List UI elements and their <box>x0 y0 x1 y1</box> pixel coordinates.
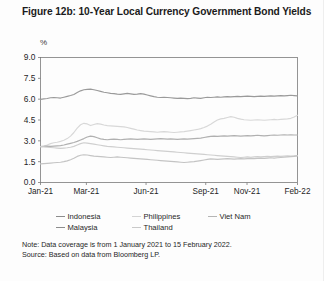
chart-plot-area: 0.01.53.04.56.07.59.0Jan-21Mar-21Jun-21S… <box>0 0 333 281</box>
legend-label-viet-nam: Viet Nam <box>220 212 251 221</box>
legend-swatch-philippines <box>132 216 141 217</box>
legend-row-2: Malaysia Thailand <box>0 222 333 233</box>
x-tick-label: Nov-21 <box>234 187 261 196</box>
y-tick-label: 4.5 <box>24 115 36 125</box>
series-line-indonesia <box>41 89 298 99</box>
x-tick-label: Jan-21 <box>28 187 53 196</box>
page-right-margin <box>323 0 333 281</box>
x-tick-label: Feb-22 <box>285 187 311 196</box>
legend-item-malaysia[interactable]: Malaysia <box>56 223 132 232</box>
legend-item-thailand[interactable]: Thailand <box>132 223 208 232</box>
chart-legend: Indonesia Philippines Viet Nam Malaysia … <box>0 211 333 233</box>
series-line-viet-nam <box>41 135 298 147</box>
legend-row-1: Indonesia Philippines Viet Nam <box>0 211 333 222</box>
y-tick-label: 0.0 <box>24 177 36 187</box>
series-line-philippines <box>41 115 298 146</box>
y-tick-label: 6.0 <box>24 94 36 104</box>
x-tick-label: Sep-21 <box>193 187 220 196</box>
y-tick-label: 7.5 <box>24 73 36 83</box>
x-tick-label: Jun-21 <box>134 187 159 196</box>
legend-swatch-malaysia <box>56 227 65 228</box>
y-tick-label: 1.5 <box>24 157 36 167</box>
legend-item-philippines[interactable]: Philippines <box>132 212 208 221</box>
legend-label-indonesia: Indonesia <box>68 212 101 221</box>
legend-swatch-viet-nam <box>208 216 217 217</box>
y-tick-label: 3.0 <box>24 136 36 146</box>
legend-label-thailand: Thailand <box>144 223 173 232</box>
legend-swatch-indonesia <box>56 216 65 217</box>
legend-swatch-thailand <box>132 227 141 228</box>
legend-item-viet-nam[interactable]: Viet Nam <box>208 212 278 221</box>
note-line: Note: Data coverage is from 1 January 20… <box>22 240 322 250</box>
legend-item-indonesia[interactable]: Indonesia <box>56 212 132 221</box>
legend-label-malaysia: Malaysia <box>68 223 98 232</box>
figure-page: Figure 12b: 10-Year Local Currency Gover… <box>0 0 333 281</box>
y-tick-label: 9.0 <box>24 52 36 62</box>
figure-footnote: Note: Data coverage is from 1 January 20… <box>22 240 322 259</box>
series-line-thailand <box>41 155 298 164</box>
x-tick-label: Mar-21 <box>73 187 99 196</box>
source-line: Source: Based on data from Bloomberg LP. <box>22 250 322 260</box>
legend-label-philippines: Philippines <box>144 212 181 221</box>
line-chart: 0.01.53.04.56.07.59.0Jan-21Mar-21Jun-21S… <box>0 0 333 281</box>
